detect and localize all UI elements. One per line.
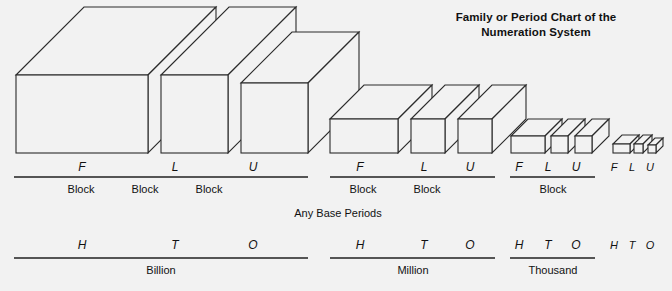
- period-label-million: Million: [375, 264, 451, 276]
- place-letter-bottom-billion-o: O: [233, 238, 273, 252]
- place-letter-bottom-million-o: O: [450, 238, 490, 252]
- place-letter-billion-f: F: [62, 160, 102, 174]
- page-title: Family or Period Chart of the Numeration…: [402, 10, 670, 40]
- period-label-thousand: Thousand: [515, 264, 591, 276]
- rule-billion-top: [14, 176, 308, 178]
- place-letter-million-l: L: [404, 160, 444, 174]
- page-title-line-2: Numeration System: [402, 25, 670, 40]
- place-letter-thousand-u: U: [562, 160, 590, 174]
- block-caption-million-2: Block: [404, 183, 450, 195]
- place-letter-units-u: U: [639, 161, 661, 173]
- page-title-line-1: Family or Period Chart of the: [402, 10, 670, 25]
- rule-million-bottom: [330, 257, 495, 259]
- place-letter-thousand-l: L: [534, 160, 562, 174]
- place-letter-billion-l: L: [155, 160, 195, 174]
- any-base-periods-caption: Any Base Periods: [268, 207, 408, 219]
- period-chart-canvas: Family or Period Chart of the Numeration…: [0, 0, 672, 291]
- place-letter-bottom-thousand-t: T: [534, 238, 562, 252]
- place-letter-bottom-million-t: T: [404, 238, 444, 252]
- rule-billion-bottom: [14, 257, 308, 259]
- block-caption-billion-1: Block: [58, 183, 104, 195]
- rule-thousand-top: [510, 176, 595, 178]
- period-label-billion: Billion: [123, 264, 199, 276]
- place-letter-billion-u: U: [233, 160, 273, 174]
- place-letter-bottom-billion-t: T: [155, 238, 195, 252]
- place-letter-bottom-units-o: O: [639, 239, 661, 251]
- place-letter-bottom-thousand-o: O: [562, 238, 590, 252]
- rule-thousand-bottom: [510, 257, 595, 259]
- block-caption-billion-2: Block: [122, 183, 168, 195]
- block-caption-million-1: Block: [340, 183, 386, 195]
- block-caption-thousand-1: Block: [530, 183, 576, 195]
- place-letter-bottom-thousand-h: H: [505, 238, 533, 252]
- place-letter-million-f: F: [340, 160, 380, 174]
- place-letter-thousand-f: F: [505, 160, 533, 174]
- rule-million-top: [330, 176, 495, 178]
- place-letter-bottom-billion-h: H: [62, 238, 102, 252]
- place-letter-million-u: U: [450, 160, 490, 174]
- block-caption-billion-3: Block: [186, 183, 232, 195]
- place-letter-bottom-million-h: H: [340, 238, 380, 252]
